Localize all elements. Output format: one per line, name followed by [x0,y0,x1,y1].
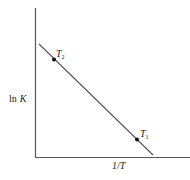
point-t2-label: T2 [56,48,65,60]
point-t1 [135,138,139,142]
point-t1-label: T1 [140,128,149,140]
ln-k-vs-inverse-t-chart: T2 T1 lnK 1/T [0,0,190,180]
y-axis-label: lnK [9,93,28,104]
x-axis-label: 1/T [112,160,127,171]
